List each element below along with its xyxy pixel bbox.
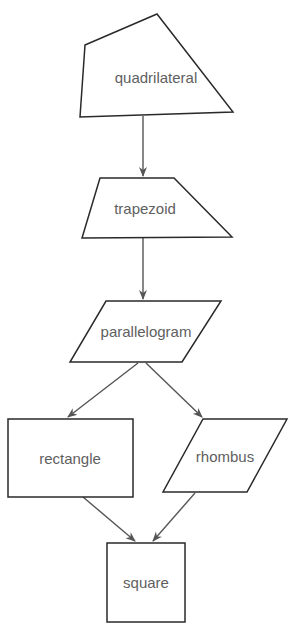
node-label: square <box>123 574 169 591</box>
node-trapezoid: trapezoid <box>82 178 232 238</box>
edge-parallelogram-to-rhombus <box>146 363 202 417</box>
node-label: quadrilateral <box>115 69 198 86</box>
quadrilateral-hierarchy-diagram: quadrilateral trapezoid parallelogram re… <box>0 0 294 626</box>
node-rectangle: rectangle <box>8 419 133 497</box>
edge-parallelogram-to-rectangle <box>68 363 138 417</box>
node-label: rectangle <box>39 450 101 467</box>
node-square: square <box>107 543 185 622</box>
node-label: parallelogram <box>101 323 192 340</box>
quadrilateral-shape <box>80 14 233 117</box>
node-parallelogram: parallelogram <box>70 301 221 362</box>
edge-rhombus-to-square <box>153 493 195 541</box>
node-label: trapezoid <box>114 200 176 217</box>
node-rhombus: rhombus <box>163 419 287 492</box>
node-quadrilateral: quadrilateral <box>80 14 233 117</box>
edge-rectangle-to-square <box>83 497 135 541</box>
node-label: rhombus <box>196 448 254 465</box>
